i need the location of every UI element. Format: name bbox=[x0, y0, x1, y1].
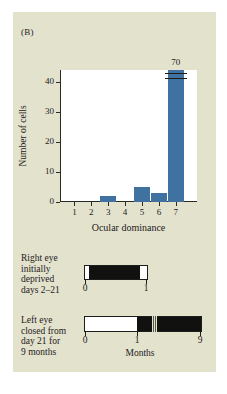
timeline-2-tick-label-9: 9 bbox=[198, 335, 203, 345]
y-tick-mark bbox=[56, 112, 60, 113]
x-tick-6 bbox=[159, 202, 160, 206]
timeline-2-axis-break bbox=[152, 316, 157, 332]
x-axis-title: Ocular dominance bbox=[60, 222, 197, 233]
y-tick-mark bbox=[56, 142, 60, 143]
bar-5 bbox=[134, 187, 150, 202]
x-tick-label-4: 4 bbox=[123, 207, 128, 217]
bar-axis-break-7 bbox=[165, 73, 187, 80]
x-tick-label-3: 3 bbox=[106, 207, 111, 217]
y-tick-mark bbox=[56, 82, 60, 83]
bar-6 bbox=[151, 193, 167, 202]
timeline-2-caption-line-1: Left eye bbox=[21, 315, 79, 326]
y-tick-mark bbox=[56, 202, 60, 203]
y-tick-10: 10 bbox=[60, 172, 64, 173]
y-axis-line bbox=[60, 70, 61, 202]
y-tick-label: 20 bbox=[45, 136, 54, 146]
panel-label: (B) bbox=[21, 27, 34, 37]
bar-3 bbox=[100, 196, 116, 202]
x-tick-label-1: 1 bbox=[72, 207, 77, 217]
x-tick-7 bbox=[176, 202, 177, 206]
timeline-1-bar bbox=[84, 265, 148, 280]
x-tick-label-6: 6 bbox=[157, 207, 162, 217]
bar-7 bbox=[168, 70, 184, 202]
timeline-2-caption: Left eye closed from day 21 for 9 months bbox=[21, 315, 79, 357]
timeline-2-tick-label-1: 1 bbox=[135, 335, 140, 345]
timeline-2-caption-line-3: day 21 for bbox=[21, 336, 79, 347]
timeline-1-caption-line-3: deprived bbox=[21, 274, 71, 285]
x-tick-label-7: 7 bbox=[174, 207, 179, 217]
y-tick-label: 0 bbox=[50, 196, 55, 206]
timeline-1-caption: Right eye initially deprived days 2–21 bbox=[21, 253, 71, 295]
timeline-1-caption-line-4: days 2–21 bbox=[21, 285, 71, 296]
y-tick-label: 10 bbox=[45, 166, 54, 176]
y-axis-title-text: Number of cells bbox=[18, 105, 28, 166]
timeline-1-tick-label-1: 1 bbox=[144, 283, 149, 293]
y-tick-mark bbox=[56, 172, 60, 173]
y-tick-20: 20 bbox=[60, 142, 64, 143]
timeline-2-fill bbox=[137, 317, 201, 331]
timeline-2-caption-line-2: closed from bbox=[21, 326, 79, 337]
y-tick-0: 0 bbox=[60, 202, 64, 203]
timeline-2-axis-title: Months bbox=[125, 348, 154, 358]
histogram-plot: 010203040 1234567 70 bbox=[60, 70, 197, 202]
timeline-1-fill bbox=[89, 266, 139, 279]
x-tick-label-5: 5 bbox=[140, 207, 145, 217]
timeline-1-caption-line-1: Right eye bbox=[21, 253, 71, 264]
x-tick-4 bbox=[125, 202, 126, 206]
y-tick-label: 30 bbox=[45, 106, 54, 116]
bar-value-label-7: 70 bbox=[171, 57, 180, 67]
x-tick-3 bbox=[108, 202, 109, 206]
x-tick-5 bbox=[142, 202, 143, 206]
y-tick-40: 40 bbox=[60, 82, 64, 83]
y-tick-label: 40 bbox=[45, 76, 54, 86]
x-tick-2 bbox=[91, 202, 92, 206]
timeline-1-caption-line-2: initially bbox=[21, 264, 71, 275]
timeline-2-tick-label-0: 0 bbox=[83, 335, 88, 345]
timeline-2-bar bbox=[84, 316, 202, 332]
y-axis-title: Number of cells bbox=[16, 70, 30, 202]
timeline-1-tick-label-0: 0 bbox=[83, 283, 88, 293]
x-tick-label-2: 2 bbox=[89, 207, 94, 217]
x-tick-1 bbox=[74, 202, 75, 206]
y-tick-30: 30 bbox=[60, 112, 64, 113]
figure-panel-b: (B) Number of cells 010203040 1234567 70… bbox=[0, 0, 227, 394]
timeline-2-caption-line-4: 9 months bbox=[21, 347, 79, 358]
